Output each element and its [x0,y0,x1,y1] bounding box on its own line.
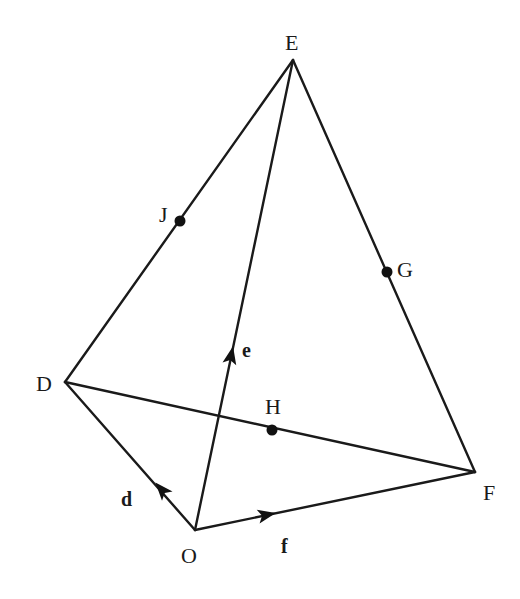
label-vector-f: f [281,535,288,557]
label-H: H [265,394,281,419]
label-G: G [397,257,413,282]
label-E: E [285,30,298,55]
label-vector-d: d [121,488,132,510]
edge-OF [195,472,475,530]
label-J: J [159,202,168,227]
label-vector-e: e [242,339,251,361]
point-J [175,216,186,227]
tetrahedron-diagram: E D F O J G H e d f [0,0,520,599]
edge-EF [293,60,475,472]
point-G [382,267,393,278]
label-D: D [36,371,52,396]
label-O: O [181,543,197,568]
label-F: F [483,480,495,505]
point-H [267,425,278,436]
